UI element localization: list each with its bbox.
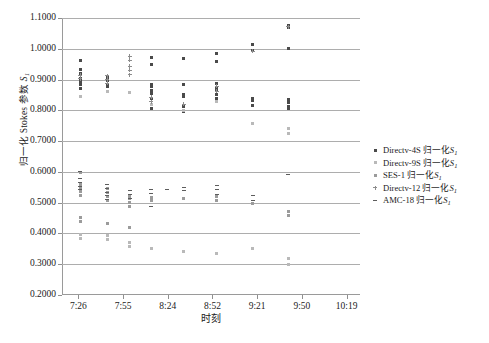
legend-item[interactable]: AMC-18 归一化S1	[372, 194, 489, 207]
data-point	[182, 95, 185, 98]
legend-marker-icon	[372, 182, 381, 195]
legend-marker-icon	[372, 194, 381, 207]
data-point	[149, 206, 153, 207]
y-axis-title-main: 归一化 Stokes 参数	[19, 81, 29, 166]
data-point	[216, 84, 217, 88]
data-point	[286, 174, 290, 175]
legend-marker-glyph	[375, 186, 376, 190]
legend-item[interactable]: Directv-9S 归一化S1	[372, 157, 489, 170]
data-point	[80, 77, 81, 81]
x-axis-line	[62, 294, 360, 295]
gridline	[62, 172, 360, 173]
legend-label-text: AMC-18 归一化	[383, 195, 443, 205]
y-tick-mark	[58, 172, 62, 173]
legend-label-text: Directv-4S 归一化	[383, 145, 450, 155]
data-point	[79, 68, 82, 71]
y-tick-mark	[58, 18, 62, 19]
data-point	[128, 226, 131, 229]
data-point	[182, 57, 185, 60]
gridline	[62, 203, 360, 204]
y-tick-mark	[58, 295, 62, 296]
legend-label-subscript: 1	[447, 199, 450, 206]
data-point	[106, 234, 109, 237]
legend-item[interactable]: Directv-4S 归一化S1	[372, 144, 489, 157]
legend-marker-glyph	[374, 161, 377, 164]
legend-item[interactable]: SES-1 归一化S1	[372, 169, 489, 182]
x-tick-mark	[168, 295, 169, 299]
data-point	[129, 73, 130, 77]
legend-label: Directv-4S 归一化S1	[383, 145, 457, 155]
gridline	[62, 264, 360, 265]
data-point	[128, 245, 131, 248]
data-point	[251, 247, 254, 250]
data-point	[287, 107, 290, 110]
data-point	[79, 237, 82, 240]
y-tick-mark	[58, 141, 62, 142]
x-tick-mark	[78, 295, 79, 299]
legend-label-subscript: 1	[454, 162, 457, 169]
data-point	[215, 252, 218, 255]
data-point	[128, 201, 131, 204]
y-tick-mark	[58, 80, 62, 81]
data-point	[79, 87, 82, 90]
data-point	[216, 89, 217, 93]
data-point	[251, 43, 254, 46]
x-tick-mark	[257, 295, 258, 299]
data-point	[106, 222, 109, 225]
chart-legend: Directv-4S 归一化S1Directv-9S 归一化S1SES-1 归一…	[372, 144, 489, 207]
data-point	[287, 132, 290, 135]
y-axis-line	[62, 18, 63, 295]
data-point	[79, 194, 82, 197]
data-point	[215, 60, 218, 63]
gridline	[62, 141, 360, 142]
data-point	[251, 202, 254, 205]
data-point	[287, 127, 290, 130]
data-point	[215, 100, 218, 103]
x-axis-title: 时刻	[62, 310, 360, 325]
legend-marker-glyph	[373, 200, 377, 201]
data-point	[183, 102, 184, 106]
data-point	[182, 197, 185, 200]
x-tick-mark	[302, 295, 303, 299]
data-point	[288, 25, 289, 29]
legend-item[interactable]: Directv-12 归一化S1	[372, 182, 489, 195]
plot-area: 0.20000.30000.40000.50000.60000.70000.80…	[62, 18, 360, 295]
x-tick-mark	[212, 295, 213, 299]
data-point	[150, 247, 153, 250]
data-point	[215, 194, 219, 195]
data-point	[149, 193, 153, 194]
data-point	[105, 184, 109, 185]
data-point	[128, 198, 132, 199]
data-point	[150, 199, 153, 202]
data-point	[78, 186, 82, 187]
data-point	[150, 107, 153, 110]
data-point	[79, 83, 82, 86]
legend-label: Directv-12 归一化S1	[383, 183, 457, 193]
data-point	[78, 182, 82, 183]
legend-label-text: SES-1 归一化	[383, 170, 434, 180]
x-tick-mark	[123, 295, 124, 299]
data-point	[79, 95, 82, 98]
legend-label-subscript: 1	[454, 149, 457, 156]
data-point	[215, 189, 219, 190]
data-point	[182, 187, 186, 188]
data-point	[128, 241, 131, 244]
data-point	[106, 238, 109, 241]
gridline	[62, 49, 360, 50]
data-point	[182, 250, 185, 253]
data-point	[128, 194, 132, 195]
legend-label-text: Directv-9S 归一化	[383, 158, 450, 168]
data-point	[129, 58, 130, 62]
legend-label: SES-1 归一化S1	[383, 170, 442, 180]
data-point	[150, 196, 153, 199]
legend-marker-icon	[372, 144, 381, 157]
gridline	[62, 110, 360, 111]
y-tick-mark	[58, 110, 62, 111]
data-point	[251, 104, 254, 107]
data-point	[105, 188, 109, 189]
data-point	[251, 200, 255, 201]
y-tick-label: 0.7000	[10, 136, 56, 145]
data-point	[78, 178, 82, 179]
data-point	[105, 199, 109, 200]
data-point	[78, 189, 82, 190]
